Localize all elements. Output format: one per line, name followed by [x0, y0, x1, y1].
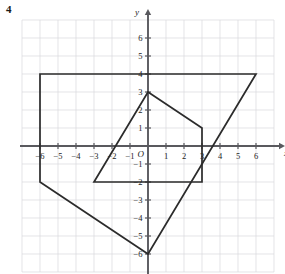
x-axis-tick-label: 1 [164, 151, 168, 161]
x-axis-tick-label: −4 [71, 151, 81, 161]
x-axis-tick-label: 3 [200, 151, 204, 161]
coordinate-grid-plot: −6−5−4−3−2−1123456654321−1−2−3−4−5−6Oxy [0, 0, 285, 274]
y-axis-tick-label: −1 [133, 159, 142, 169]
y-axis-tick-label: −3 [133, 195, 142, 205]
y-axis-tick-label: −2 [133, 177, 142, 187]
y-axis-tick-label: −5 [133, 231, 142, 241]
x-axis-tick-label: 6 [254, 151, 258, 161]
y-axis-tick-label: −6 [133, 249, 142, 259]
x-axis-tick-label: −3 [89, 151, 98, 161]
x-axis-label: x [283, 148, 285, 158]
y-axis-tick-label: 2 [138, 105, 142, 115]
y-axis-tick-label: 5 [138, 51, 142, 61]
x-axis-tick-label: −2 [107, 151, 116, 161]
y-axis-tick-label: 3 [138, 87, 142, 97]
x-axis-tick-label: −5 [53, 151, 62, 161]
x-axis-tick-label: 4 [218, 151, 223, 161]
y-axis-tick-label: −4 [133, 213, 143, 223]
y-axis-label: y [134, 7, 139, 17]
origin-label: O [138, 149, 145, 159]
axis-lines [20, 9, 285, 274]
x-axis-tick-label: −6 [35, 151, 44, 161]
y-axis-tick-label: 1 [138, 123, 142, 133]
y-axis-tick-label: 6 [138, 33, 142, 43]
x-axis-tick-label: 5 [236, 151, 240, 161]
tick-labels: −6−5−4−3−2−1123456654321−1−2−3−4−5−6Oxy [35, 7, 285, 259]
y-axis-arrowhead [145, 9, 151, 15]
x-axis-tick-label: 2 [182, 151, 186, 161]
figure-root: 4 −6−5−4−3−2−1123456654321−1−2−3−4−5−6Ox… [0, 0, 285, 274]
